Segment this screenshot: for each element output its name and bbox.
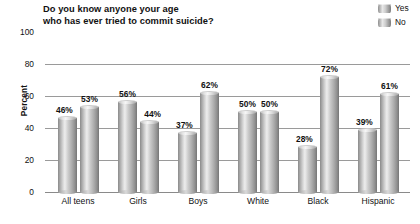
chart-title: Do you know anyone your age who has ever… [43, 4, 303, 27]
chart-title-line-1: Do you know anyone your age [43, 4, 303, 16]
gridline-80 [45, 64, 410, 65]
y-tick-label-20: 20 [8, 155, 34, 165]
bar-value-girls-yes: 56% [119, 89, 136, 99]
x-category-label-all-teens: All teens [48, 196, 108, 206]
x-category-label-white: White [228, 196, 288, 206]
legend-label-yes: Yes [395, 4, 409, 13]
x-category-label-boys: Boys [168, 196, 228, 206]
bar-white-no[interactable]: 50% [260, 112, 279, 192]
gridline-40 [45, 128, 410, 129]
y-tick-label-80: 80 [8, 59, 34, 69]
bar-foot-icon [58, 190, 77, 194]
bar-foot-icon [358, 190, 377, 194]
y-axis-title: Percent [20, 71, 29, 131]
bar-foot-icon [298, 190, 317, 194]
bar-foot-icon [80, 190, 99, 194]
bar-girls-yes[interactable]: 56% [118, 102, 137, 192]
x-category-label-girls: Girls [108, 196, 168, 206]
bar-value-black-no: 72% [321, 64, 338, 74]
plot-area: 46% 53% 56% 44% 37% 62% [45, 32, 410, 192]
bar-cap-icon [80, 105, 99, 109]
bar-value-hispanic-yes: 39% [356, 117, 373, 127]
legend-swatch-yes-icon [378, 4, 391, 13]
bar-all-teens-yes[interactable]: 46% [58, 118, 77, 192]
x-category-label-black: Black [288, 196, 348, 206]
legend-swatch-no-icon [378, 18, 391, 27]
bar-cap-icon [358, 128, 377, 132]
y-tick-label-100: 100 [8, 27, 34, 37]
bar-girls-no[interactable]: 44% [140, 122, 159, 192]
bar-chart: Do you know anyone your age who has ever… [0, 0, 420, 224]
bar-cap-icon [200, 91, 219, 95]
bar-all-teens-no[interactable]: 53% [80, 107, 99, 192]
bar-boys-no[interactable]: 62% [200, 93, 219, 192]
bar-value-girls-no: 44% [144, 109, 161, 119]
chart-title-line-2: who has ever tried to commit suicide? [43, 16, 303, 28]
bar-foot-icon [178, 190, 197, 194]
gridline-60 [45, 96, 410, 97]
bar-value-hispanic-no: 61% [381, 81, 398, 91]
bar-foot-icon [238, 190, 257, 194]
legend-label-no: No [395, 18, 406, 27]
bar-boys-yes[interactable]: 37% [178, 133, 197, 192]
bar-white-yes[interactable]: 50% [238, 112, 257, 192]
bar-hispanic-yes[interactable]: 39% [358, 130, 377, 192]
bar-cap-icon [380, 92, 399, 96]
bar-black-yes[interactable]: 28% [298, 147, 317, 192]
gridline-baseline-0 [45, 192, 410, 193]
y-tick-label-0: 0 [8, 187, 34, 197]
legend-item-no: No [378, 17, 418, 28]
bar-foot-icon [200, 190, 219, 194]
bar-cap-icon [260, 110, 279, 114]
bar-foot-icon [260, 190, 279, 194]
bar-cap-icon [238, 110, 257, 114]
bar-cap-icon [178, 131, 197, 135]
bar-foot-icon [380, 190, 399, 194]
bar-value-white-no: 50% [261, 99, 278, 109]
chart-legend: Yes No [378, 3, 418, 31]
bar-cap-icon [58, 116, 77, 120]
bar-foot-icon [140, 190, 159, 194]
gridline-20 [45, 160, 410, 161]
bar-cap-icon [298, 145, 317, 149]
bar-value-boys-yes: 37% [176, 120, 193, 130]
bar-black-no[interactable]: 72% [320, 77, 339, 192]
bar-cap-icon [140, 120, 159, 124]
bar-foot-icon [320, 190, 339, 194]
bar-cap-icon [320, 75, 339, 79]
bar-value-boys-no: 62% [201, 80, 218, 90]
bar-foot-icon [118, 190, 137, 194]
bar-value-black-yes: 28% [296, 134, 313, 144]
bar-value-white-yes: 50% [239, 99, 256, 109]
x-category-label-hispanic: Hispanic [348, 196, 408, 206]
bar-value-all-teens-yes: 46% [56, 105, 73, 115]
bar-cap-icon [118, 100, 137, 104]
bar-value-all-teens-no: 53% [81, 94, 98, 104]
bar-hispanic-no[interactable]: 61% [380, 94, 399, 192]
legend-item-yes: Yes [378, 3, 418, 14]
